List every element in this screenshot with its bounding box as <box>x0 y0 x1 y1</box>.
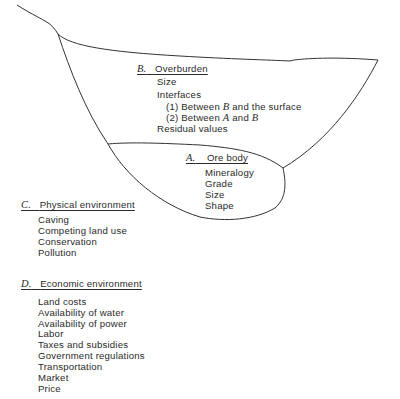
economic-item-land-costs: Land costs <box>38 296 86 307</box>
economic-item-market: Market <box>38 372 69 383</box>
overburden-item-residual: Residual values <box>157 123 228 134</box>
interface-2-var: A <box>223 112 230 123</box>
ore-body-header: A. Ore body <box>186 152 248 163</box>
overburden-item-size: Size <box>157 76 176 87</box>
overburden-item-interfaces: Interfaces <box>157 89 201 100</box>
ore-item-size: Size <box>205 189 224 200</box>
interface-2-var2: B <box>252 112 259 123</box>
overburden-header: B. Overburden <box>137 63 208 74</box>
interface-1-pre: Between <box>181 101 220 112</box>
interface-2-and: and <box>232 112 249 123</box>
physical-letter: C. <box>21 199 31 210</box>
economic-item-regulations: Government regulations <box>38 350 145 361</box>
economic-item-price: Price <box>38 383 61 394</box>
economic-letter: D. <box>21 278 32 289</box>
economic-title: Economic environment <box>40 278 142 289</box>
physical-item-caving: Caving <box>38 214 69 225</box>
interface-2-pre: Between <box>181 112 220 123</box>
pit-right-wall <box>283 60 378 168</box>
interface-1-var: B <box>223 101 230 112</box>
interface-1-num: (1) <box>166 101 178 112</box>
ore-item-shape: Shape <box>205 200 234 211</box>
physical-item-land-use: Competing land use <box>38 225 127 236</box>
physical-header: C. Physical environment <box>21 199 135 210</box>
interface-2: (2) Between A and B <box>166 112 258 123</box>
economic-item-transportation: Transportation <box>38 361 102 372</box>
physical-item-pollution: Pollution <box>38 247 77 258</box>
interface-1: (1) Between B and the surface <box>166 101 301 112</box>
physical-title: Physical environment <box>40 199 135 210</box>
overburden-letter: B. <box>137 63 146 74</box>
ore-item-grade: Grade <box>205 178 233 189</box>
ground-surface-left <box>17 5 58 34</box>
economic-item-labor: Labor <box>38 328 64 339</box>
economic-header: D. Economic environment <box>21 278 142 289</box>
economic-item-water: Availability of water <box>38 307 124 318</box>
ore-body-letter: A. <box>186 152 195 163</box>
overburden-title: Overburden <box>155 63 208 74</box>
interface-2-num: (2) <box>166 112 178 123</box>
ore-item-mineralogy: Mineralogy <box>205 167 254 178</box>
ground-surface-overburden-top <box>58 34 378 61</box>
ore-body-title: Ore body <box>207 152 248 163</box>
physical-item-conservation: Conservation <box>38 236 97 247</box>
economic-item-taxes: Taxes and subsidies <box>38 339 128 350</box>
interface-1-post: and the surface <box>232 101 301 112</box>
